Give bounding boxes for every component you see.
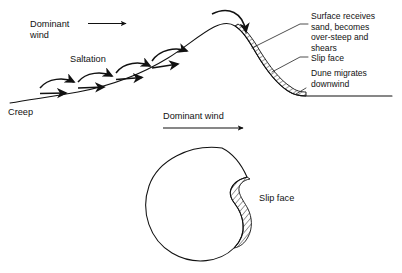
diagram-canvas: Dominant wind Saltation Creep xyxy=(0,0,402,273)
annotation-dune-migrates-line-1: downwind xyxy=(311,79,349,89)
barchan-slip-face-label: Slip face xyxy=(259,193,294,203)
dominant-wind-label-line1: Dominant xyxy=(30,19,70,29)
saltation-label: Saltation xyxy=(70,54,106,64)
saltation-hop-4 xyxy=(152,49,187,68)
leader-slip-face xyxy=(272,57,308,72)
dune-diagram-figure: Dominant wind Saltation Creep xyxy=(0,0,402,273)
annotation-slip-face: Slip face xyxy=(311,53,344,63)
saltation-hop-arrows xyxy=(40,49,187,93)
dune-cross-section: Dominant wind Saltation Creep xyxy=(8,11,392,117)
annotation-surface-receives-line-2: over-steep and xyxy=(311,32,369,42)
annotation-surface-receives-line-1: sand, becomes xyxy=(311,22,369,32)
leader-surface-receives xyxy=(252,24,308,48)
slip-face-band-cross-section xyxy=(235,24,306,96)
creep-label: Creep xyxy=(8,107,33,117)
saltation-hop-1 xyxy=(40,79,74,93)
saltation-hop-3 xyxy=(116,63,150,79)
annotation-slip-face-line-0: Slip face xyxy=(311,53,344,63)
barchan-outline xyxy=(146,147,247,261)
annotation-surface-receives-line-3: shears xyxy=(311,43,337,53)
barchan-plan-view: Slip face xyxy=(146,147,295,261)
dominant-wind-plan-group: Dominant wind xyxy=(163,111,243,128)
dominant-wind-label-line2: wind xyxy=(29,30,49,40)
annotation-surface-receives-line-0: Surface receives xyxy=(311,11,375,21)
annotation-dune-migrates: Dune migrates downwind xyxy=(311,68,367,89)
dominant-wind-plan-label: Dominant wind xyxy=(163,111,224,121)
saltation-hop-2 xyxy=(78,73,112,88)
annotation-surface-receives: Surface receives sand, becomes over-stee… xyxy=(311,11,375,53)
annotation-dune-migrates-line-0: Dune migrates xyxy=(311,68,367,78)
